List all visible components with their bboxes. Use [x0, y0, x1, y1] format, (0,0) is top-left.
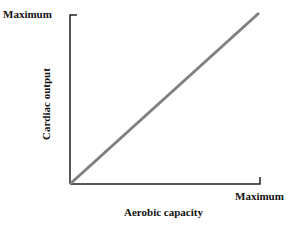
x-max-label: Maximum [235, 190, 284, 202]
x-axis [70, 177, 260, 184]
y-axis [70, 15, 77, 184]
y-axis-title: Cardiac output [40, 68, 52, 140]
data-line [70, 13, 259, 184]
y-max-label: Maximum [3, 8, 52, 20]
x-axis-title: Aerobic capacity [124, 206, 203, 218]
